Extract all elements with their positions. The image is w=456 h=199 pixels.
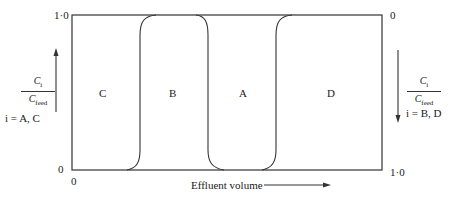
right-arrow-icon xyxy=(323,183,331,188)
left-top-tick: 1·0 xyxy=(54,10,69,21)
region-b-label: B xyxy=(169,88,176,99)
left-denominator-sub: feed xyxy=(35,99,47,107)
plot-frame xyxy=(72,15,382,170)
peak-a-d-boundary xyxy=(262,15,292,170)
right-numerator-sub: i xyxy=(426,81,428,89)
peak-b-a-boundary-top xyxy=(196,15,224,170)
region-d-label: D xyxy=(327,88,335,99)
right-top-tick: 0 xyxy=(390,10,396,21)
x-origin-tick: 0 xyxy=(71,176,77,187)
down-arrow-icon xyxy=(396,115,401,123)
left-bottom-tick: 0 xyxy=(58,164,64,175)
left-numerator-sub: i xyxy=(40,81,42,89)
right-axis-label: Ci Cfeed xyxy=(406,76,442,107)
right-denominator-sub: feed xyxy=(421,99,433,107)
right-species-label: i = B, D xyxy=(406,107,442,119)
peak-b-curve xyxy=(127,15,156,170)
left-axis-label: Ci Cfeed xyxy=(20,76,56,107)
left-species-label: i = A, C xyxy=(5,112,40,124)
region-c-label: C xyxy=(99,88,106,99)
x-axis-label: Effluent volume xyxy=(191,180,263,191)
right-bottom-tick: 1·0 xyxy=(390,167,405,178)
diagram-canvas xyxy=(0,0,456,199)
region-a-label: A xyxy=(239,88,247,99)
up-arrow-icon xyxy=(54,48,59,56)
